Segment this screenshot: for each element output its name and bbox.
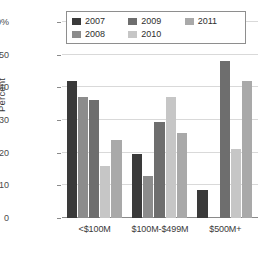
legend-label: 2007 xyxy=(85,17,105,26)
bar-group xyxy=(67,22,123,218)
y-tick-mark xyxy=(57,153,61,154)
bar-group xyxy=(132,22,188,218)
bar xyxy=(111,140,121,218)
bar xyxy=(89,100,99,218)
y-tick-label: 10 xyxy=(0,181,9,190)
legend-item-2009[interactable]: 2009 xyxy=(128,17,184,26)
x-tick-label: $500M+ xyxy=(175,224,271,234)
legend-label: 2009 xyxy=(141,17,161,26)
y-tick-mark xyxy=(57,87,61,88)
legend-swatch-icon xyxy=(128,31,137,38)
legend-label: 2010 xyxy=(141,30,161,39)
legend-swatch-icon xyxy=(72,18,81,25)
legend-swatch-icon xyxy=(128,18,137,25)
y-tick-mark xyxy=(57,120,61,121)
bar-chart: Percent 0102030405060% <$100M$100M-$499M… xyxy=(0,0,271,253)
bar xyxy=(100,166,110,218)
y-tick-label: 20 xyxy=(0,149,9,158)
bar xyxy=(132,154,142,218)
legend-label: 2008 xyxy=(85,30,105,39)
legend-item-2011[interactable]: 2011 xyxy=(185,17,241,26)
y-tick-label: 0 xyxy=(0,214,9,223)
legend-swatch-icon xyxy=(185,18,194,25)
y-tick-label: 60% xyxy=(0,18,9,27)
legend-item-2008[interactable]: 2008 xyxy=(72,30,128,39)
bar xyxy=(143,176,153,218)
y-tick-mark xyxy=(57,218,61,219)
legend-item-2007[interactable]: 2007 xyxy=(72,17,128,26)
bar xyxy=(154,122,164,218)
legend-item-2010[interactable]: 2010 xyxy=(128,30,184,39)
y-tick-label: 50 xyxy=(0,51,9,60)
legend-row: 200720092011 xyxy=(72,15,241,28)
y-tick-mark xyxy=(57,185,61,186)
legend-item-empty xyxy=(185,31,241,38)
legend-row: 20082010 xyxy=(72,28,241,41)
legend-swatch-icon xyxy=(72,31,81,38)
y-tick-label: 30 xyxy=(0,116,9,125)
chart-legend: 20072009201120082010 xyxy=(66,11,246,44)
bar xyxy=(177,133,187,218)
plot-area xyxy=(62,22,258,218)
bar xyxy=(242,81,252,218)
y-tick-mark xyxy=(57,55,61,56)
bar xyxy=(231,149,241,218)
y-tick-mark xyxy=(57,22,61,23)
bar xyxy=(220,61,230,218)
bar xyxy=(197,190,207,218)
bar xyxy=(78,97,88,218)
bar xyxy=(67,81,77,218)
y-tick-label: 40 xyxy=(0,83,9,92)
bar-group xyxy=(197,22,253,218)
bar xyxy=(166,97,176,218)
legend-label: 2011 xyxy=(198,17,217,26)
